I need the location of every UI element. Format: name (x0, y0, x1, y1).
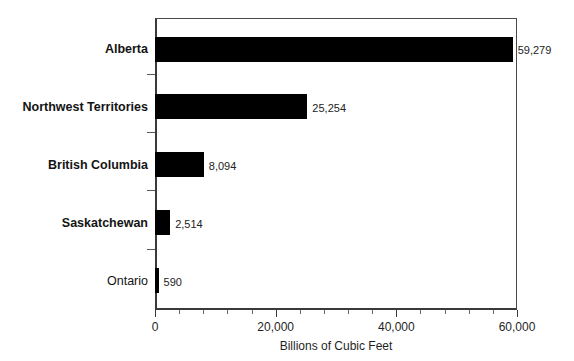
value-label-alberta: 59,279 (518, 44, 552, 56)
x-axis-title: Billions of Cubic Feet (155, 339, 517, 353)
bar-slot (155, 268, 517, 293)
y-axis-tick (147, 249, 155, 250)
bar-slot (155, 210, 517, 235)
value-label-northwest-territories: 25,254 (312, 102, 346, 114)
category-label-ontario: Ontario (0, 274, 148, 288)
x-axis-minor-tick (445, 310, 446, 314)
bar-ontario (155, 268, 159, 293)
x-axis-minor-tick (227, 310, 228, 314)
x-axis-tick-label: 60,000 (499, 320, 536, 334)
category-label-northwest-territories: Northwest Territories (0, 100, 148, 114)
x-axis-minor-tick (348, 310, 349, 314)
bar-alberta (155, 37, 513, 62)
bar-chart: Alberta Northwest Territories British Co… (0, 0, 574, 361)
value-label-ontario: 590 (164, 276, 182, 288)
bar-british-columbia (155, 152, 204, 177)
x-axis-minor-tick (372, 310, 373, 314)
y-axis-tick (147, 132, 155, 133)
x-axis-minor-tick (203, 310, 204, 314)
x-axis-minor-tick (179, 310, 180, 314)
x-axis-major-tick (396, 310, 397, 317)
value-label-british-columbia: 8,094 (209, 160, 237, 172)
category-label-saskatchewan: Saskatchewan (0, 216, 148, 230)
value-label-saskatchewan: 2,514 (175, 218, 203, 230)
y-axis-tick (147, 74, 155, 75)
bar-northwest-territories (155, 94, 307, 119)
x-axis-major-tick (517, 310, 518, 317)
x-axis-minor-tick (420, 310, 421, 314)
x-axis-minor-tick (493, 310, 494, 314)
x-axis-minor-tick (300, 310, 301, 314)
x-axis-tick-label: 20,000 (257, 320, 294, 334)
x-axis-minor-tick (324, 310, 325, 314)
x-axis-major-tick (155, 310, 156, 317)
x-axis-major-tick (276, 310, 277, 317)
category-label-alberta: Alberta (0, 42, 148, 56)
category-label-british-columbia: British Columbia (0, 158, 148, 172)
x-axis-tick-label: 40,000 (378, 320, 415, 334)
bar-slot (155, 37, 517, 62)
y-axis-tick (147, 190, 155, 191)
x-axis-minor-tick (469, 310, 470, 314)
bar-saskatchewan (155, 210, 170, 235)
x-axis-tick-label: 0 (152, 320, 159, 334)
x-axis-minor-tick (252, 310, 253, 314)
